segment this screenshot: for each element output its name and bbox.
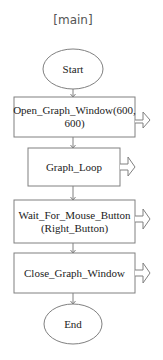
wait-for-mouse-button-label: Wait_For_Mouse_Button (Right_Button) — [15, 201, 134, 242]
open-graph-window-call-arrow-icon — [135, 112, 150, 128]
close-graph-window-label: Close_Graph_Window — [15, 254, 134, 292]
graph-loop-label: Graph_Loop — [29, 149, 119, 185]
end-label: End — [44, 314, 102, 334]
start-label: Start — [43, 59, 103, 79]
graph-loop-call-arrow-icon — [120, 157, 135, 176]
open-graph-window-label: Open_Graph_Window(600, 600) — [15, 98, 134, 136]
wait-for-mouse-button-call-arrow-icon — [135, 209, 150, 229]
close-graph-window-call-arrow-icon — [135, 263, 150, 283]
